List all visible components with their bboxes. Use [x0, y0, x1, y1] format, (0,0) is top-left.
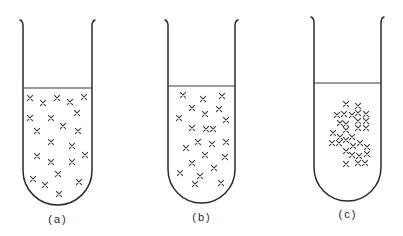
particle-x-mark [356, 153, 361, 158]
particle-x-mark [341, 111, 346, 116]
particle-x-mark [202, 111, 207, 116]
particle-x-mark [223, 139, 228, 144]
particles [176, 92, 228, 186]
particle-x-mark [336, 140, 341, 145]
particle-x-mark [197, 173, 202, 178]
particle-x-mark [355, 103, 360, 108]
particle-x-mark [350, 143, 355, 148]
particle-x-mark [343, 148, 348, 153]
tube-b [165, 20, 238, 203]
particle-x-mark [55, 171, 60, 176]
particle-x-mark [222, 154, 227, 159]
particle-x-mark [349, 152, 354, 157]
particle-x-mark [189, 160, 194, 165]
particle-x-mark [364, 144, 369, 149]
particle-x-mark [330, 130, 335, 135]
particle-x-mark [82, 152, 87, 157]
tube-label-b: (b) [192, 211, 211, 223]
tube-outline [165, 20, 238, 203]
particle-x-mark [192, 181, 197, 186]
particle-x-mark [40, 100, 45, 105]
particle-x-mark [48, 139, 53, 144]
particle-x-mark [189, 105, 194, 110]
particle-x-mark [74, 110, 79, 115]
particle-x-mark [56, 191, 61, 196]
tube-label-c: (c) [339, 208, 358, 220]
particle-x-mark [30, 176, 35, 181]
particle-x-mark [200, 96, 205, 101]
particle-x-mark [176, 115, 181, 120]
particle-x-mark [337, 134, 342, 139]
particle-x-mark [48, 159, 53, 164]
particle-x-mark [216, 106, 221, 111]
particle-x-mark [69, 143, 74, 148]
particle-x-mark [75, 128, 80, 133]
particle-x-mark [203, 126, 208, 131]
particle-x-mark [343, 121, 348, 126]
particle-x-mark [343, 137, 348, 142]
particle-x-mark [195, 139, 200, 144]
particle-x-mark [362, 160, 367, 165]
particle-x-mark [180, 92, 185, 97]
particles [27, 94, 87, 196]
particle-x-mark [183, 145, 188, 150]
particle-x-mark [364, 151, 369, 156]
particle-x-mark [34, 153, 39, 158]
particle-x-mark [210, 126, 215, 131]
particle-x-mark [48, 115, 53, 120]
particle-x-mark [211, 165, 216, 170]
particle-x-mark [69, 159, 74, 164]
particle-x-mark [27, 95, 32, 100]
particle-x-mark [349, 134, 354, 139]
particle-x-mark [337, 120, 342, 125]
particle-x-mark [76, 179, 81, 184]
particle-x-mark [34, 128, 39, 133]
particle-x-mark [363, 125, 368, 130]
particle-x-mark [209, 141, 214, 146]
particle-x-mark [355, 125, 360, 130]
particle-x-mark [177, 170, 182, 175]
particle-x-mark [27, 115, 32, 120]
particle-x-mark [218, 180, 223, 185]
particle-x-mark [329, 140, 334, 145]
test-tubes-diagram [0, 0, 403, 236]
particles [329, 101, 369, 166]
particle-x-mark [60, 123, 65, 128]
particle-x-mark [349, 112, 354, 117]
tube-label-a: (a) [48, 213, 67, 225]
particle-x-mark [81, 94, 86, 99]
particle-x-mark [355, 110, 360, 115]
particle-x-mark [334, 112, 339, 117]
particle-x-mark [355, 160, 360, 165]
particle-x-mark [357, 140, 362, 145]
particle-x-mark [189, 125, 194, 130]
particle-x-mark [343, 127, 348, 132]
tube-outline [311, 17, 384, 201]
particle-x-mark [219, 93, 224, 98]
particle-x-mark [67, 99, 72, 104]
particle-x-mark [42, 182, 47, 187]
particle-x-mark [343, 101, 348, 106]
particle-x-mark [363, 111, 368, 116]
tube-a [20, 20, 95, 205]
particle-x-mark [223, 117, 228, 122]
tube-c [311, 17, 384, 201]
particle-x-mark [355, 118, 360, 123]
particle-x-mark [54, 95, 59, 100]
particle-x-mark [343, 161, 348, 166]
particle-x-mark [363, 118, 368, 123]
particle-x-mark [202, 152, 207, 157]
